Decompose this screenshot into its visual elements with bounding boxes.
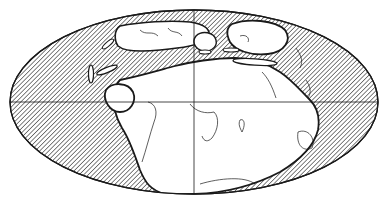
terrane-sliver-6 [89,65,94,83]
map-figure [0,0,389,206]
terrane-sliver-3 [199,50,211,54]
terrane-sliver-2 [223,48,239,52]
caribbean-plate [105,84,134,112]
world-map-svg [0,0,389,206]
baltica-landmass [194,33,216,52]
